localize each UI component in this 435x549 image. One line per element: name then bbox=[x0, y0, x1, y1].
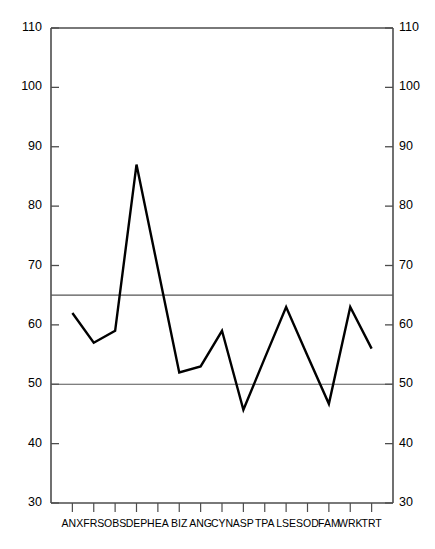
left-axis-tick-label: 30 bbox=[8, 496, 42, 509]
right-axis-tick-label: 110 bbox=[399, 21, 433, 34]
left-axis-tick-label: 80 bbox=[8, 199, 42, 212]
data-series-line bbox=[72, 165, 371, 410]
right-axis-tick-label: 80 bbox=[399, 199, 433, 212]
left-axis-tick-label: 90 bbox=[8, 140, 42, 153]
reference-lines bbox=[51, 295, 393, 384]
left-axis-tick-label: 40 bbox=[8, 437, 42, 450]
right-axis-tick-label: 30 bbox=[399, 496, 433, 509]
left-axis-tick-label: 60 bbox=[8, 318, 42, 331]
left-axis-tick-label: 70 bbox=[8, 259, 42, 272]
right-axis-tick-label: 40 bbox=[399, 437, 433, 450]
right-axis-ticks bbox=[385, 28, 393, 503]
chart-container: 11010090807060504030 1101009080706050403… bbox=[0, 0, 435, 549]
right-axis-tick-label: 100 bbox=[399, 80, 433, 93]
x-axis-ticks bbox=[72, 503, 371, 512]
x-axis-tick-label: TRT bbox=[356, 518, 388, 529]
left-axis-tick-label: 100 bbox=[8, 80, 42, 93]
left-axis-ticks bbox=[51, 28, 59, 503]
left-axis-tick-label: 110 bbox=[8, 21, 42, 34]
profile-line bbox=[72, 165, 371, 410]
right-axis-tick-label: 60 bbox=[399, 318, 433, 331]
right-axis-tick-label: 70 bbox=[399, 259, 433, 272]
right-axis-tick-label: 50 bbox=[399, 377, 433, 390]
axis-frame bbox=[51, 28, 393, 503]
chart-plot-area bbox=[0, 0, 435, 549]
left-axis-tick-label: 50 bbox=[8, 377, 42, 390]
right-axis-tick-label: 90 bbox=[399, 140, 433, 153]
